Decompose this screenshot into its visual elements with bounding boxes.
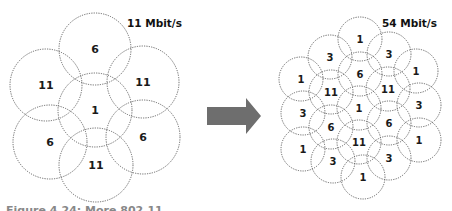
channel-label: 3: [330, 156, 337, 167]
left-cell: 11: [59, 128, 133, 202]
channel-label: 3: [386, 153, 393, 164]
right-cell: 1: [279, 57, 323, 101]
channel-label: 1: [413, 66, 420, 77]
channel-label: 6: [91, 43, 99, 56]
right-cell: 1: [338, 17, 382, 61]
left-cell: 11: [10, 49, 82, 121]
right-cell: 11: [366, 67, 410, 111]
left-cell-cluster: 6111116611: [10, 13, 180, 202]
channel-label: 11: [324, 87, 338, 98]
channel-label: 6: [357, 69, 364, 80]
channel-label: 1: [360, 172, 367, 183]
right-cell: 1: [281, 127, 325, 171]
channel-label: 11: [352, 137, 366, 148]
right-cell: 1: [397, 118, 441, 162]
channel-label: 1: [357, 34, 364, 45]
right-cell: 11: [309, 70, 353, 114]
left-cell: 1: [58, 73, 132, 147]
channel-label: 1: [356, 103, 363, 114]
channel-label: 1: [416, 135, 423, 146]
right-cell: 3: [367, 136, 411, 180]
channel-label: 1: [91, 104, 99, 117]
right-cell: 3: [367, 32, 411, 76]
channel-label: 11: [135, 76, 150, 89]
channel-label: 6: [386, 118, 393, 129]
right-cell: 1: [341, 155, 385, 199]
channel-label: 11: [381, 84, 395, 95]
right-cell: 6: [309, 105, 353, 149]
channel-label: 6: [139, 131, 147, 144]
left-cell: 6: [106, 100, 180, 174]
right-title: 54 Mbit/s: [382, 17, 437, 29]
channel-label: 3: [386, 49, 393, 60]
right-cell: 1: [337, 86, 381, 130]
channel-label: 3: [327, 52, 334, 63]
right-cell: 6: [338, 52, 382, 96]
channel-label: 3: [300, 108, 307, 119]
left-cell: 11: [107, 46, 179, 118]
channel-label: 6: [328, 122, 335, 133]
channel-label: 6: [46, 136, 54, 149]
channel-label: 11: [88, 159, 103, 172]
channel-label: 1: [298, 74, 305, 85]
channel-label: 3: [416, 100, 423, 111]
right-arrow-icon: [207, 98, 261, 134]
channel-reuse-diagram: 6111116611 11 Mbit/s 1336111111133661111…: [0, 0, 452, 211]
left-cell: 6: [59, 13, 131, 85]
channel-label: 11: [38, 79, 53, 92]
figure-caption: Figure 4.24: More 802.11 ...: [6, 204, 179, 211]
left-title: 11 Mbit/s: [127, 17, 182, 29]
right-cell: 3: [281, 91, 325, 135]
channel-label: 1: [300, 144, 307, 155]
right-cell-cluster: 1336111111133661111331: [279, 17, 441, 199]
